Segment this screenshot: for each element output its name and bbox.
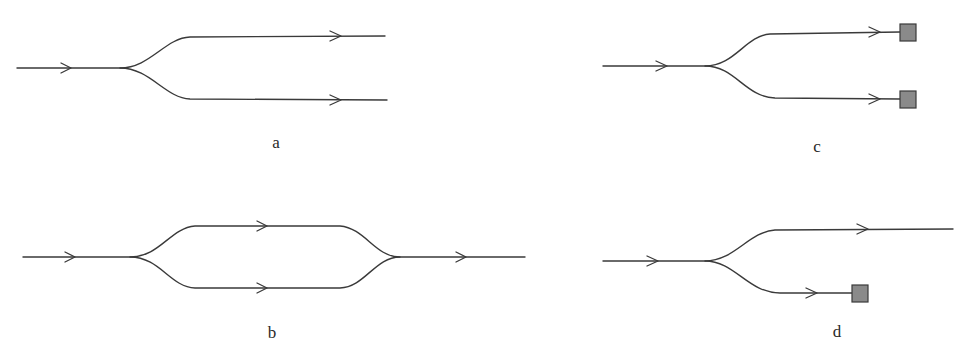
panel-c-label: c — [813, 137, 821, 157]
panel-d-upper-wire — [603, 229, 953, 261]
panel-b-lower-arm — [130, 257, 400, 288]
panel-c-lower-termination-icon — [900, 91, 916, 108]
panel-b-mach-zehnder — [23, 221, 525, 293]
panel-c-lower-wire — [705, 66, 900, 99]
panel-a-lower-wire — [120, 68, 387, 100]
panel-b-label: b — [268, 323, 277, 343]
panel-d-partially-terminated-splitter — [603, 224, 953, 302]
diagram-canvas — [0, 0, 966, 355]
panel-c-terminated-splitter — [603, 24, 916, 108]
panel-a-label: a — [272, 133, 280, 153]
panel-c-upper-termination-icon — [900, 24, 916, 41]
panel-a-y-splitter — [17, 31, 387, 105]
panel-d-termination-icon — [852, 285, 868, 302]
panel-b-upper-arm — [23, 226, 525, 257]
panel-c-upper-wire — [603, 32, 900, 66]
panel-d-label: d — [833, 322, 842, 342]
panel-d-lower-wire — [705, 261, 852, 293]
